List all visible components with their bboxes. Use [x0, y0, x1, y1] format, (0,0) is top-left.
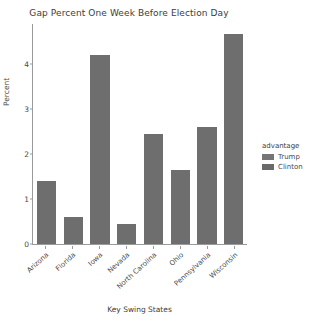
legend: advantage TrumpClinton — [262, 142, 303, 173]
y-axis-label: Percent — [2, 78, 11, 106]
bar-slot — [220, 24, 247, 244]
bar-slot — [167, 24, 194, 244]
y-tick-label: 4 — [24, 59, 29, 68]
x-tick-mark — [99, 246, 100, 249]
x-tick-mark — [72, 246, 73, 249]
bar-slot — [87, 24, 114, 244]
legend-entries: TrumpClinton — [262, 153, 303, 171]
chart-title: Gap Percent One Week Before Election Day — [0, 8, 258, 18]
bar-ohio[interactable] — [171, 170, 190, 244]
legend-item-trump[interactable]: Trump — [262, 153, 303, 161]
x-tick-mark — [153, 246, 154, 249]
y-tick-mark — [30, 198, 33, 199]
bar-nevada[interactable] — [117, 224, 136, 244]
legend-swatch-icon — [262, 154, 274, 160]
plot-area: 01234 — [32, 24, 247, 245]
x-tick-slot: Florida — [59, 246, 86, 296]
x-tick-slot: Wisconsin — [220, 246, 247, 296]
y-tick-label: 0 — [24, 240, 29, 249]
bar-slot — [140, 24, 167, 244]
x-tick-label-iowa: Iowa — [87, 251, 105, 268]
x-tick-mark — [180, 246, 181, 249]
bar-slot — [33, 24, 60, 244]
bar-wisconsin[interactable] — [224, 34, 243, 244]
chart-figure: Gap Percent One Week Before Election Day… — [0, 0, 314, 325]
x-axis-ticks: ArizonaFloridaIowaNevadaNorth CarolinaOh… — [32, 246, 247, 296]
y-tick-label: 2 — [24, 149, 29, 158]
y-tick-mark — [30, 244, 33, 245]
x-tick-mark — [126, 246, 127, 249]
bar-florida[interactable] — [64, 217, 83, 244]
bar-slot — [60, 24, 87, 244]
bar-series — [33, 24, 247, 244]
bar-slot — [113, 24, 140, 244]
legend-item-clinton[interactable]: Clinton — [262, 163, 303, 171]
x-tick-slot: Arizona — [32, 246, 59, 296]
legend-title: advantage — [262, 142, 303, 150]
x-tick-slot: North Carolina — [140, 246, 167, 296]
x-tick-mark — [234, 246, 235, 249]
x-tick-mark — [207, 246, 208, 249]
y-tick-label: 3 — [24, 104, 29, 113]
legend-label: Clinton — [278, 163, 303, 171]
legend-swatch-icon — [262, 164, 274, 170]
x-tick-label-ohio: Ohio — [168, 251, 185, 268]
x-axis-label: Key Swing States — [32, 305, 247, 314]
x-tick-label-arizona: Arizona — [26, 251, 51, 275]
bar-north-carolina[interactable] — [144, 134, 163, 245]
bar-slot — [194, 24, 221, 244]
x-tick-label-florida: Florida — [55, 251, 78, 273]
x-tick-mark — [45, 246, 46, 249]
bar-pennsylvania[interactable] — [197, 127, 216, 244]
y-tick-mark — [30, 63, 33, 64]
legend-label: Trump — [278, 153, 300, 161]
y-tick-label: 1 — [24, 194, 29, 203]
bar-iowa[interactable] — [90, 55, 109, 244]
y-tick-mark — [30, 153, 33, 154]
bar-arizona[interactable] — [37, 181, 56, 244]
y-tick-mark — [30, 108, 33, 109]
